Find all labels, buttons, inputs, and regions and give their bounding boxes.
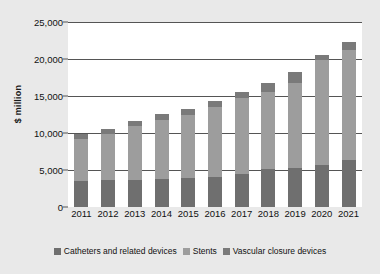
bar-segment	[101, 180, 115, 207]
y-axis-tick-label: 0	[8, 202, 63, 213]
legend-item[interactable]: Stents	[183, 246, 217, 256]
x-axis-tick-label: 2016	[202, 208, 228, 219]
y-axis-tick-mark	[63, 133, 68, 134]
y-axis-tick-mark	[63, 96, 68, 97]
legend-label: Vascular closure devices	[233, 246, 326, 256]
bar-group	[208, 22, 222, 207]
bar-segment	[261, 83, 275, 93]
bar-group	[128, 22, 142, 207]
bar-group	[74, 22, 88, 207]
bar-segment	[181, 178, 195, 207]
y-axis-title: $ million	[8, 0, 28, 207]
bar-segment	[342, 160, 356, 207]
legend-label: Stents	[193, 246, 217, 256]
plot-area	[68, 22, 362, 207]
y-axis-tick-label: 15,000	[8, 91, 63, 102]
bar-segment	[208, 107, 222, 177]
x-axis-tick-label: 2019	[282, 208, 308, 219]
bar-segment	[288, 72, 302, 83]
x-axis-tick-label: 2021	[336, 208, 362, 219]
bar-segment	[342, 42, 356, 50]
y-axis-tick-mark	[63, 170, 68, 171]
bar-segment	[128, 180, 142, 207]
y-axis-tick-mark	[63, 59, 68, 60]
x-axis-tick-label: 2018	[255, 208, 281, 219]
x-axis-tick-labels: 2011201220132014201520162017201820192020…	[68, 208, 362, 226]
chart-legend: Catheters and related devicesStentsVascu…	[0, 246, 380, 256]
bar-segment	[315, 165, 329, 207]
y-axis-tick-mark	[63, 22, 68, 23]
legend-swatch-icon	[223, 248, 230, 255]
bar-segment	[261, 169, 275, 207]
x-axis-tick-label: 2017	[229, 208, 255, 219]
bar-segment	[74, 139, 88, 181]
bar-segment	[181, 115, 195, 178]
bar-segment	[261, 92, 275, 169]
bar-group	[288, 22, 302, 207]
bar-segment	[74, 181, 88, 207]
legend-item[interactable]: Catheters and related devices	[54, 246, 177, 256]
legend-label: Catheters and related devices	[64, 246, 177, 256]
bar-group	[235, 22, 249, 207]
bar-segment	[288, 168, 302, 207]
bar-group	[261, 22, 275, 207]
bar-segment	[155, 179, 169, 207]
bar-segment	[101, 134, 115, 181]
bar-segment	[235, 174, 249, 207]
bar-group	[101, 22, 115, 207]
bar-segment	[128, 126, 142, 180]
y-axis-tick-label: 10,000	[8, 128, 63, 139]
bar-segment	[208, 177, 222, 207]
x-axis-tick-label: 2013	[122, 208, 148, 219]
y-axis-tick-label: 20,000	[8, 54, 63, 65]
bar-segment	[235, 98, 249, 174]
bar-segment	[315, 60, 329, 165]
bar-group	[315, 22, 329, 207]
bar-segment	[288, 83, 302, 168]
bar-segment	[342, 50, 356, 161]
legend-swatch-icon	[54, 248, 61, 255]
stacked-bar-chart: $ million 201120122013201420152016201720…	[0, 0, 380, 274]
bar-group	[155, 22, 169, 207]
bar-group	[181, 22, 195, 207]
x-axis-tick-label: 2011	[68, 208, 94, 219]
legend-swatch-icon	[183, 248, 190, 255]
x-axis-tick-label: 2012	[95, 208, 121, 219]
bar-series-container	[68, 22, 362, 207]
bar-group	[342, 22, 356, 207]
y-axis-tick-mark	[63, 207, 68, 208]
legend-item[interactable]: Vascular closure devices	[223, 246, 326, 256]
y-axis-tick-label: 25,000	[8, 17, 63, 28]
y-axis-tick-label: 5,000	[8, 165, 63, 176]
x-axis-tick-label: 2014	[149, 208, 175, 219]
x-axis-tick-label: 2015	[175, 208, 201, 219]
bar-segment	[155, 120, 169, 180]
x-axis-tick-label: 2020	[309, 208, 335, 219]
